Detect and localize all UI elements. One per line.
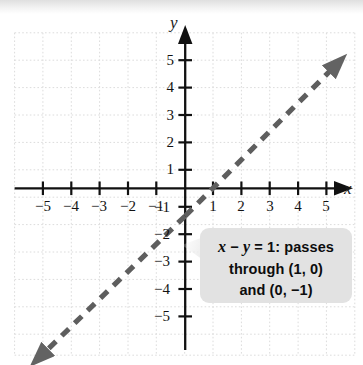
x-tick-label-1: 1 [202,199,224,214]
y-tick-label--5: −5 [146,309,170,324]
graph-figure: y x −5 −4 −3 −2 −1 1 2 3 4 5 5 4 3 2 1 −… [0,0,363,365]
y-tick-label-2: 2 [150,135,174,150]
callout-line-1-rest: = 1: passes [250,239,334,255]
x-tick-label-5: 5 [315,199,337,214]
coordinate-plane [0,0,363,365]
equation-callout: x − y = 1: passes through (1, 0) and (0,… [200,228,352,303]
callout-var-x: x [218,238,226,255]
x-tick-label--3: −3 [88,199,110,214]
y-tick-label-1: 1 [150,162,174,177]
x-tick-label--4: −4 [60,199,82,214]
callout-line-2: through (1, 0) [206,259,346,280]
y-tick-label--2: −2 [146,227,170,242]
x-tick-label--2: −2 [117,199,139,214]
y-tick-label-3: 3 [150,108,174,123]
y-axis-label: y [170,14,178,31]
x-tick-label--5: −5 [32,199,54,214]
x-tick-label-3: 3 [259,199,281,214]
y-tick-label--4: −4 [146,282,170,297]
y-tick-label-4: 4 [150,80,174,95]
y-tick-label-5: 5 [150,53,174,68]
callout-line-1: x − y = 1: passes [206,235,346,259]
y-tick-label--1: −1 [146,200,170,215]
y-tick-label--3: −3 [146,254,170,269]
callout-operator: − [226,239,243,255]
x-axis-label: x [344,180,352,197]
callout-line-3: and (0, −1) [206,280,346,301]
x-tick-label-2: 2 [230,199,252,214]
plotted-line-upper [185,70,331,216]
x-tick-label-4: 4 [287,199,309,214]
